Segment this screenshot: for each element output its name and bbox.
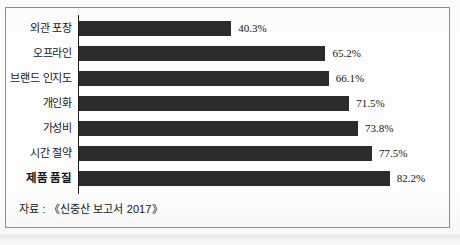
bar-row: 오프라인 65.2% — [6, 41, 451, 66]
bar-shape — [79, 96, 349, 111]
bar-category-label: 오프라인 — [6, 41, 72, 66]
bar-value-label: 82.2% — [397, 166, 425, 191]
bar-value-label: 77.5% — [379, 141, 407, 166]
bar-category-label: 시간 절약 — [6, 141, 72, 166]
bar-value-label: 73.8% — [365, 116, 393, 141]
bar-category-label: 브랜드 인지도 — [6, 66, 72, 91]
chart-frame: 외관 포장 40.3% 오프라인 65.2% 브랜드 인지도 66.1% 개인화… — [5, 7, 450, 228]
bar-shape — [79, 171, 390, 186]
bar-row: 브랜드 인지도 66.1% — [6, 66, 451, 91]
bar-category-label: 외관 포장 — [6, 16, 72, 41]
bar-value-label: 40.3% — [238, 16, 266, 41]
bar-shape — [79, 46, 325, 61]
bar-row: 가성비 73.8% — [6, 116, 451, 141]
chart-screenshot: 외관 포장 40.3% 오프라인 65.2% 브랜드 인지도 66.1% 개인화… — [0, 0, 460, 245]
bar-row: 외관 포장 40.3% — [6, 16, 451, 41]
bar-shape — [79, 121, 358, 136]
source-note: 자료 : 《신중산 보고서 2017》 — [19, 200, 163, 216]
bar-row: 시간 절약 77.5% — [6, 141, 451, 166]
bar-shape — [79, 146, 372, 161]
page-edge-strip — [0, 232, 460, 245]
bar-value-label: 71.5% — [356, 91, 384, 116]
bar-shape — [79, 71, 329, 86]
bar-row: 제품 품질 82.2% — [6, 166, 451, 191]
bar-value-label: 66.1% — [336, 66, 364, 91]
bar-shape — [79, 21, 231, 36]
bar-category-label: 가성비 — [6, 116, 72, 141]
bar-value-label: 65.2% — [332, 41, 360, 66]
bar-category-label: 개인화 — [6, 91, 72, 116]
bar-row: 개인화 71.5% — [6, 91, 451, 116]
plot-area: 외관 포장 40.3% 오프라인 65.2% 브랜드 인지도 66.1% 개인화… — [6, 8, 451, 190]
bar-category-label: 제품 품질 — [6, 166, 72, 191]
